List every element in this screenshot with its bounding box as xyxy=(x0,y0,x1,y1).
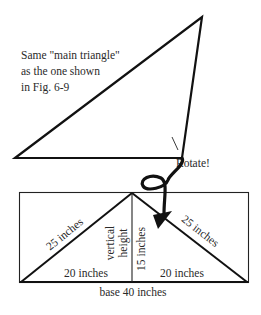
right-base-label: 20 inches xyxy=(160,267,204,279)
angle-tick-mark xyxy=(172,137,178,150)
total-base-label: base 40 inches xyxy=(99,286,167,298)
caption-line-2: as the one shown xyxy=(21,65,100,77)
left-base-label: 20 inches xyxy=(64,267,108,279)
height-value-label: 15 inches xyxy=(135,227,147,271)
vertical-height-label-line1: vertical xyxy=(104,226,116,260)
arrowhead-icon xyxy=(153,211,172,229)
vertical-height-label-line2: height xyxy=(117,228,130,258)
caption-line-1: Same "main triangle" xyxy=(21,49,120,62)
isosceles-triangle-diagram: Same "main triangle" as the one shown in… xyxy=(0,0,261,315)
caption-line-3: in Fig. 6-9 xyxy=(21,81,69,94)
right-hypotenuse-label: 25 inches xyxy=(180,213,222,250)
